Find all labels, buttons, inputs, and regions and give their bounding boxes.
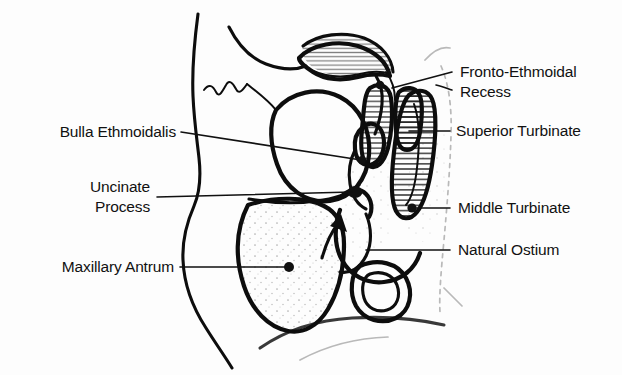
label-bulla-ethmoidalis: Bulla Ethmoidalis <box>60 123 177 140</box>
label-fronto-ethmoidal-recess-line1: Fronto-Ethmoidal <box>460 63 576 80</box>
label-middle-turbinate: Middle Turbinate <box>458 199 570 216</box>
leader-line-fronto-ethmoidal-2 <box>436 85 452 90</box>
facial-profile-contour <box>183 14 232 368</box>
label-superior-turbinate: Superior Turbinate <box>456 122 581 139</box>
diagram-page: Fronto-Ethmoidal Recess Superior Turbina… <box>0 0 622 375</box>
callout-bulla-ethmoidalis[interactable]: Bulla Ethmoidalis <box>60 123 366 164</box>
label-fronto-ethmoidal-recess-line2: Recess <box>460 83 511 100</box>
recess-marker-dot <box>376 81 384 89</box>
inferior-turbinate <box>352 262 410 321</box>
leader-line-uncinate-process <box>157 192 352 197</box>
leader-dot-middle-turbinate <box>407 203 416 212</box>
label-maxillary-antrum: Maxillary Antrum <box>62 258 174 275</box>
leader-dot-maxillary-antrum <box>284 262 294 272</box>
anatomy-diagram: Fronto-Ethmoidal Recess Superior Turbina… <box>0 0 622 375</box>
label-uncinate-process-line1: Uncinate <box>90 178 150 195</box>
label-natural-ostium: Natural Ostium <box>458 241 559 258</box>
label-uncinate-process-line2: Process <box>95 198 150 215</box>
leader-line-fronto-ethmoidal-1 <box>392 72 452 88</box>
leader-dot-bulla-ethmoidalis <box>358 156 366 164</box>
callout-natural-ostium[interactable]: Natural Ostium <box>366 241 559 258</box>
